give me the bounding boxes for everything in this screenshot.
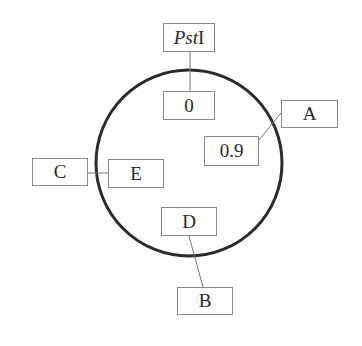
- label-e: E: [108, 159, 164, 188]
- label-a: A: [281, 100, 338, 128]
- label-pst1-italic: Pst: [174, 27, 198, 49]
- label-c: C: [32, 158, 88, 186]
- label-0-9: 0.9: [204, 136, 259, 166]
- label-d: D: [161, 207, 217, 236]
- connector-d-b: [189, 236, 203, 287]
- label-pst1-plain: I: [198, 27, 204, 49]
- label-b: B: [177, 287, 233, 315]
- label-pst1: PstI: [163, 23, 215, 52]
- label-zero: 0: [163, 91, 215, 120]
